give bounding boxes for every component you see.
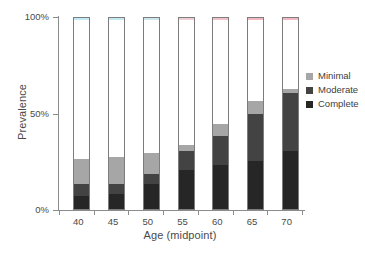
legend-swatch-icon xyxy=(306,87,313,94)
bar-segment-complete xyxy=(283,151,298,209)
bar-segment-complete xyxy=(74,196,89,210)
x-axis-tick xyxy=(59,210,60,215)
bar-segment-complete xyxy=(248,161,263,209)
bar-top-fringe xyxy=(213,18,228,20)
bar-segment-moderate xyxy=(213,136,228,165)
legend-swatch-icon xyxy=(306,101,313,108)
x-axis-tick xyxy=(128,210,129,215)
y-axis-tick-label: 100% xyxy=(0,11,49,22)
bar-segment-minimal xyxy=(179,145,194,151)
x-axis-tick xyxy=(198,210,199,215)
bar-segment-minimal xyxy=(109,157,124,184)
x-axis-tick xyxy=(302,210,303,215)
bar-segment-moderate xyxy=(144,174,159,184)
prevalence-by-age-chart: Prevalence 100%50%0% 40455055606570 Age … xyxy=(0,0,365,253)
bar-top-fringe xyxy=(248,18,263,20)
bar-age-60 xyxy=(212,17,229,210)
x-axis-tick-label: 45 xyxy=(96,216,130,227)
bar-age-45 xyxy=(108,17,125,210)
legend-item-minimal: Minimal xyxy=(306,69,359,83)
x-axis-tick-label: 40 xyxy=(61,216,95,227)
x-axis-title: Age (midpoint) xyxy=(55,229,305,241)
bar-age-40 xyxy=(73,17,90,210)
y-axis-tick-label: 50% xyxy=(0,108,49,119)
x-axis-tick xyxy=(163,210,164,215)
x-axis-tick-label: 50 xyxy=(131,216,165,227)
bar-age-50 xyxy=(143,17,160,210)
legend-item-moderate: Moderate xyxy=(306,83,359,97)
legend-swatch-icon xyxy=(306,73,313,80)
legend-item-label: Minimal xyxy=(318,71,351,81)
legend-item-label: Moderate xyxy=(318,85,358,95)
bar-segment-minimal xyxy=(144,153,159,174)
x-axis-tick-label: 70 xyxy=(270,216,304,227)
bar-segment-moderate xyxy=(179,151,194,170)
bar-top-fringe xyxy=(283,18,298,20)
bar-top-fringe xyxy=(109,18,124,20)
bar-segment-moderate xyxy=(109,184,124,194)
bar-age-70 xyxy=(282,17,299,210)
bar-segment-minimal xyxy=(213,124,228,136)
bar-age-55 xyxy=(178,17,195,210)
y-axis-tick-label: 0% xyxy=(0,204,49,215)
x-axis-tick xyxy=(94,210,95,215)
x-axis-tick xyxy=(267,210,268,215)
bar-segment-moderate xyxy=(283,93,298,151)
bar-segment-minimal xyxy=(74,159,89,184)
bar-segment-complete xyxy=(109,194,124,209)
bar-segment-minimal xyxy=(248,101,263,115)
bar-segment-complete xyxy=(213,165,228,209)
plot-area xyxy=(59,17,302,210)
x-axis-tick-label: 55 xyxy=(166,216,200,227)
bar-top-fringe xyxy=(74,18,89,20)
legend-item-label: Complete xyxy=(318,99,359,109)
bar-segment-minimal xyxy=(283,89,298,93)
bar-top-fringe xyxy=(179,18,194,20)
bar-segment-complete xyxy=(144,184,159,209)
bar-age-65 xyxy=(247,17,264,210)
x-axis-tick xyxy=(233,210,234,215)
x-axis-tick-label: 65 xyxy=(235,216,269,227)
x-axis-tick-label: 60 xyxy=(200,216,234,227)
chart-legend: MinimalModerateComplete xyxy=(306,69,359,111)
bar-segment-moderate xyxy=(74,184,89,196)
bar-segment-moderate xyxy=(248,114,263,160)
bar-segment-complete xyxy=(179,170,194,209)
bar-top-fringe xyxy=(144,18,159,20)
legend-item-complete: Complete xyxy=(306,97,359,111)
